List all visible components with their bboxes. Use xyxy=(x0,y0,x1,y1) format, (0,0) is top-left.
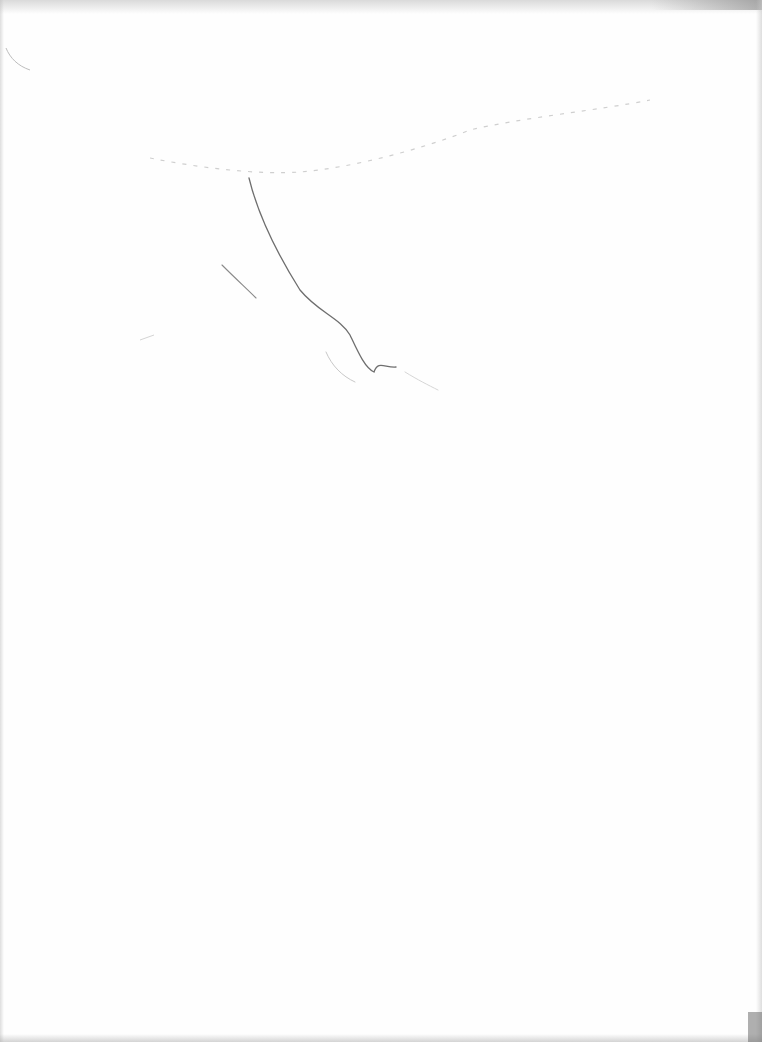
main-curved-stroke xyxy=(249,178,396,372)
dotted-top-arc xyxy=(150,100,650,173)
pencil-marks xyxy=(0,0,762,1042)
faint-arc-stroke xyxy=(326,352,355,382)
short-diagonal-stroke xyxy=(222,265,256,298)
faint-dash-stroke xyxy=(140,335,154,340)
scanned-page xyxy=(0,0,762,1042)
edge-crack-stroke xyxy=(6,48,30,70)
faint-trailing-stroke xyxy=(405,372,438,390)
